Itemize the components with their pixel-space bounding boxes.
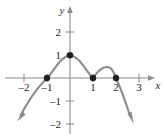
- y-tick-label-neg1: –1: [49, 95, 61, 107]
- x-tick-label-2: 2: [113, 81, 119, 93]
- y-tick-label-1: 1: [56, 49, 62, 61]
- graph-figure: –2 –1 1 2 3 2 1 –1 –2 y x: [0, 0, 167, 136]
- y-axis-label: y: [59, 4, 65, 16]
- curve-arrow-right: [128, 112, 134, 124]
- coordinate-plane-svg: –2 –1 1 2 3 2 1 –1 –2 y x: [0, 0, 167, 136]
- x-tick-label-1: 1: [90, 81, 96, 93]
- y-tick-label-neg2: –2: [49, 118, 61, 130]
- x-axis-label: x: [155, 79, 161, 91]
- x-tick-label-neg2: –2: [18, 81, 30, 93]
- x-tick-label-3: 3: [136, 81, 142, 93]
- y-tick-label-2: 2: [56, 26, 62, 38]
- y-axis: [67, 6, 73, 134]
- x-axis: [5, 75, 155, 81]
- point-0-1: [67, 52, 73, 58]
- x-tick-label-neg1: –1: [41, 81, 53, 93]
